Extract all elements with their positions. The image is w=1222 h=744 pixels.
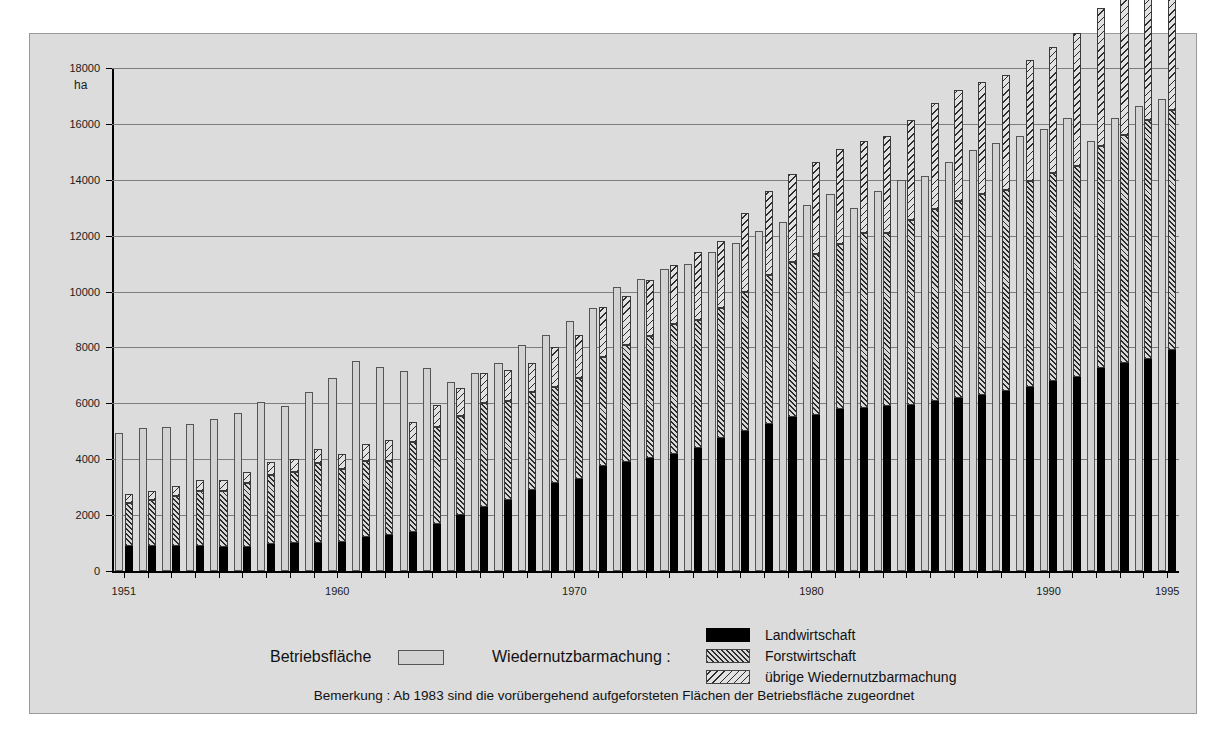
bar-segment-uebrige xyxy=(1049,47,1057,173)
bar-betriebsflaeche xyxy=(542,335,550,571)
bar-betriebsflaeche xyxy=(305,392,313,571)
bar-segment-forstwirtschaft xyxy=(456,416,464,515)
bar-group xyxy=(894,68,918,571)
bar-group xyxy=(776,68,800,571)
x-tick-label: 1995 xyxy=(1155,585,1179,597)
bar-segment-landwirtschaft xyxy=(741,431,749,571)
bar-segment-landwirtschaft xyxy=(646,458,654,571)
bar-segment-uebrige xyxy=(267,462,275,475)
bar-segment-landwirtschaft xyxy=(860,408,868,571)
bar-group xyxy=(1132,68,1156,571)
y-tick-label: 14000 xyxy=(69,174,100,186)
bar-segment-landwirtschaft xyxy=(1144,359,1152,571)
bar-segment-uebrige xyxy=(362,444,370,461)
bar-wiedernutzbarmachung xyxy=(528,363,536,571)
bar-betriebsflaeche xyxy=(328,378,336,571)
bar-group xyxy=(1037,68,1061,571)
bar-segment-forstwirtschaft xyxy=(883,233,891,406)
bar-segment-forstwirtschaft xyxy=(765,275,773,425)
bar-wiedernutzbarmachung xyxy=(646,280,654,571)
bar-group xyxy=(373,68,397,571)
bar-betriebsflaeche xyxy=(850,208,858,571)
bar-segment-landwirtschaft xyxy=(338,542,346,571)
bar-wiedernutzbarmachung xyxy=(172,486,180,571)
bar-group xyxy=(539,68,563,571)
bar-segment-uebrige xyxy=(836,149,844,244)
bar-betriebsflaeche xyxy=(589,308,597,571)
bar-segment-uebrige xyxy=(694,252,702,319)
bar-wiedernutzbarmachung xyxy=(290,459,298,571)
legend-swatch-landwirtschaft xyxy=(706,628,750,642)
bar-group xyxy=(325,68,349,571)
bar-segment-forstwirtschaft xyxy=(148,500,156,546)
bar-segment-forstwirtschaft xyxy=(314,463,322,543)
bar-segment-landwirtschaft xyxy=(1002,391,1010,571)
x-tick-label: 1970 xyxy=(562,585,586,597)
bar-group xyxy=(468,68,492,571)
bar-betriebsflaeche xyxy=(471,373,479,571)
bar-segment-uebrige xyxy=(883,136,891,232)
bar-betriebsflaeche xyxy=(210,419,218,571)
bar-wiedernutzbarmachung xyxy=(385,440,393,571)
bar-segment-landwirtschaft xyxy=(788,417,796,571)
bar-wiedernutzbarmachung xyxy=(1073,33,1081,571)
bar-group xyxy=(397,68,421,571)
bar-segment-forstwirtschaft xyxy=(954,201,962,398)
bar-segment-uebrige xyxy=(385,440,393,461)
bar-betriebsflaeche xyxy=(1135,106,1143,571)
legend-item-uebrige: übrige Wiedernutzbarmachung xyxy=(765,669,956,685)
bar-segment-uebrige xyxy=(290,459,298,472)
x-tick-mark xyxy=(480,572,481,578)
bar-segment-landwirtschaft xyxy=(1120,363,1128,571)
bar-group xyxy=(681,68,705,571)
bar-segment-uebrige xyxy=(480,373,488,404)
chart-panel: ha 0200040006000800010000120001400016000… xyxy=(29,33,1197,714)
bar-segment-forstwirtschaft xyxy=(267,475,275,545)
bar-wiedernutzbarmachung xyxy=(243,472,251,571)
bar-wiedernutzbarmachung xyxy=(788,174,796,571)
bar-segment-landwirtschaft xyxy=(812,415,820,571)
y-tick-label: 6000 xyxy=(76,397,100,409)
bar-wiedernutzbarmachung xyxy=(978,82,986,571)
x-tick-mark xyxy=(646,572,647,578)
legend-swatch-uebrige xyxy=(706,670,750,684)
x-tick-mark xyxy=(835,572,836,578)
x-tick-label: 1980 xyxy=(799,585,823,597)
x-tick-mark xyxy=(1025,572,1026,578)
bar-betriebsflaeche xyxy=(684,264,692,571)
bar-betriebsflaeche xyxy=(779,222,787,571)
bar-segment-uebrige xyxy=(670,265,678,324)
bar-betriebsflaeche xyxy=(1158,99,1166,571)
bar-wiedernutzbarmachung xyxy=(622,296,630,571)
x-tick-mark xyxy=(503,572,504,578)
bar-segment-landwirtschaft xyxy=(219,547,227,571)
bar-group xyxy=(1108,68,1132,571)
bar-betriebsflaeche xyxy=(139,428,147,571)
bar-wiedernutzbarmachung xyxy=(1097,8,1105,571)
bar-segment-forstwirtschaft xyxy=(385,461,393,535)
legend-item-forstwirtschaft: Forstwirtschaft xyxy=(765,648,856,664)
bar-group xyxy=(1060,68,1084,571)
bar-betriebsflaeche xyxy=(803,205,811,571)
bar-wiedernutzbarmachung xyxy=(409,422,417,572)
bar-betriebsflaeche xyxy=(1087,141,1095,571)
bar-segment-uebrige xyxy=(622,296,630,345)
bar-betriebsflaeche xyxy=(400,371,408,571)
bar-wiedernutzbarmachung xyxy=(812,162,820,571)
bar-segment-forstwirtschaft xyxy=(504,401,512,500)
bar-wiedernutzbarmachung xyxy=(860,141,868,571)
y-tick-label: 12000 xyxy=(69,230,100,242)
bar-segment-uebrige xyxy=(599,307,607,357)
bar-group xyxy=(1084,68,1108,571)
bar-segment-uebrige xyxy=(219,480,227,491)
chart-page: ha 0200040006000800010000120001400016000… xyxy=(0,0,1222,744)
bar-segment-uebrige xyxy=(1002,75,1010,190)
x-tick-mark xyxy=(242,572,243,578)
bar-betriebsflaeche xyxy=(945,162,953,571)
bar-segment-uebrige xyxy=(409,422,417,443)
bar-betriebsflaeche xyxy=(1111,118,1119,571)
x-tick-mark xyxy=(527,572,528,578)
bar-segment-uebrige xyxy=(1026,60,1034,182)
bar-betriebsflaeche xyxy=(874,191,882,571)
bar-segment-landwirtschaft xyxy=(978,395,986,571)
